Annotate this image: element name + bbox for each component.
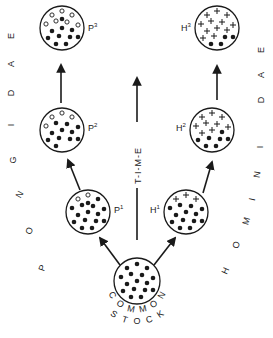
plus-mark	[198, 21, 204, 27]
plus-mark	[173, 196, 179, 202]
common-stock-letter: M	[126, 303, 135, 314]
common-stock-letter: C	[145, 314, 155, 326]
node-label-p1: P1	[114, 204, 124, 215]
pongidae-letter: A	[6, 61, 16, 67]
plus-mark	[219, 19, 225, 25]
hollow-dot	[50, 115, 54, 119]
hollow-dot	[76, 23, 80, 27]
pongidae-letter: G	[8, 156, 18, 163]
solid-dot	[60, 26, 65, 31]
solid-dot	[46, 36, 51, 41]
solid-dot	[181, 218, 186, 223]
solid-dot	[76, 137, 81, 142]
solid-dot	[231, 35, 236, 40]
solid-dot	[151, 288, 156, 293]
solid-dot	[54, 121, 59, 126]
solid-dot	[80, 226, 85, 231]
arrow-h1-to-h2	[203, 162, 212, 193]
arrow-p1-to-p2	[68, 160, 80, 190]
solid-dot	[219, 42, 224, 47]
solid-dot	[76, 213, 81, 218]
solid-dot	[135, 279, 140, 284]
solid-dot	[135, 262, 140, 267]
common-stock-label: COMMONSTOCK	[106, 290, 167, 327]
solid-dot	[196, 138, 201, 143]
plus-mark	[193, 196, 199, 202]
hollow-dot	[50, 13, 54, 17]
solid-dot	[54, 42, 59, 47]
arrow-common-to-p1	[100, 238, 120, 265]
hominidae-letter: N	[252, 171, 263, 179]
plus-mark	[214, 121, 220, 127]
hollow-dot	[86, 193, 90, 197]
node-p1: P1	[66, 190, 124, 234]
pongidae-letter: I	[6, 124, 16, 127]
node-label-p2: P2	[88, 122, 98, 133]
hominidae-letter: H	[219, 266, 231, 276]
solid-dot	[70, 130, 75, 135]
solid-dot	[54, 144, 59, 149]
plus-mark	[199, 114, 205, 120]
solid-dot	[80, 203, 85, 208]
solid-dot	[65, 122, 70, 127]
solid-dot	[86, 201, 91, 206]
solid-dot	[70, 206, 75, 211]
plus-mark	[183, 192, 189, 198]
solid-dot	[60, 128, 65, 133]
solid-dot	[145, 266, 150, 271]
plus-mark	[199, 130, 205, 136]
time-label: T-I-M-E	[133, 147, 143, 184]
solid-dot	[76, 125, 81, 130]
solid-dot	[125, 266, 130, 271]
solid-dot	[102, 207, 107, 212]
solid-dot	[125, 282, 130, 287]
plus-mark	[209, 127, 215, 133]
common-stock-letter: N	[156, 290, 168, 301]
solid-dot	[129, 272, 134, 277]
common-stock-letter: K	[155, 308, 166, 320]
hominidae-letter: A	[256, 72, 266, 78]
solid-dot	[178, 226, 183, 231]
solid-dot	[121, 289, 126, 294]
plus-mark	[224, 27, 230, 33]
solid-dot	[50, 29, 55, 34]
solid-dot	[214, 144, 219, 149]
solid-dot	[72, 220, 77, 225]
node-label-h3: H3	[181, 22, 192, 33]
solid-dot	[90, 226, 95, 231]
node-h3: H3	[181, 6, 239, 50]
solid-dot	[91, 204, 96, 209]
solid-dot	[83, 218, 88, 223]
hominidae-letter: I	[247, 197, 257, 202]
pongidae-letter: N	[13, 189, 25, 200]
plus-mark	[193, 123, 199, 129]
solid-dot	[86, 210, 91, 215]
solid-dot	[50, 131, 55, 136]
solid-dot	[102, 219, 107, 224]
hollow-dot	[70, 13, 74, 17]
node-label-h2: H2	[176, 122, 187, 133]
node-h1: H1	[150, 190, 208, 234]
solid-dot	[209, 42, 214, 47]
node-p3: P3	[40, 6, 98, 50]
solid-dot	[174, 213, 179, 218]
common-stock-letter: T	[121, 314, 130, 325]
hollow-dot	[65, 20, 69, 24]
node-p2: P2	[40, 108, 98, 152]
common-stock-letter: M	[138, 303, 147, 314]
solid-dot	[46, 138, 51, 143]
solid-dot	[94, 219, 99, 224]
solid-dot	[194, 212, 199, 217]
plus-mark	[203, 120, 209, 126]
common-stock-letter: S	[109, 308, 120, 320]
common-stock-letter: O	[148, 298, 160, 310]
solid-dot	[200, 207, 205, 212]
pongidae-letter: O	[23, 225, 35, 236]
solid-dot	[204, 144, 209, 149]
arrow-common-to-h1	[154, 238, 175, 265]
pongidae-letter: P	[36, 263, 47, 272]
plus-mark	[208, 18, 214, 24]
solid-dot	[223, 35, 228, 40]
hominidae-letter: M	[240, 216, 252, 226]
solid-dot	[151, 276, 156, 281]
